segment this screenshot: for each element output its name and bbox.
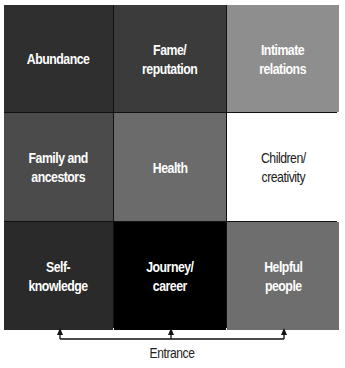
entrance-arrows — [0, 328, 345, 344]
cell-label: Health — [153, 158, 188, 177]
cell-helpful-people: Helpful people — [227, 222, 339, 330]
cell-label: Family and ancestors — [29, 148, 88, 186]
cell-fame-reputation: Fame/ reputation — [114, 5, 226, 112]
cell-children-creativity: Children/ creativity — [227, 113, 339, 221]
cell-label: Fame/ reputation — [142, 40, 197, 78]
cell-label: Self- knowledge — [29, 257, 88, 295]
arrow-up-icon — [168, 328, 174, 335]
cell-journey-career: Journey/ career — [114, 222, 226, 330]
cell-abundance: Abundance — [4, 5, 113, 112]
cell-label: Journey/ career — [146, 257, 193, 295]
cell-health: Health — [114, 113, 226, 221]
cell-label: Helpful people — [264, 257, 302, 295]
arrow-up-icon — [281, 328, 287, 335]
entrance-label: Entrance — [0, 344, 345, 361]
entrance-text: Entrance — [150, 344, 195, 361]
arrow-up-icon — [57, 328, 63, 335]
cell-label: Intimate relations — [260, 40, 307, 78]
cell-family-ancestors: Family and ancestors — [4, 113, 113, 221]
cell-label: Abundance — [27, 49, 90, 68]
cell-label: Children/ creativity — [261, 148, 306, 186]
bagua-grid: Abundance Fame/ reputation Intimate rela… — [4, 5, 337, 328]
cell-self-knowledge: Self- knowledge — [4, 222, 113, 330]
cell-intimate-relations: Intimate relations — [227, 5, 339, 112]
